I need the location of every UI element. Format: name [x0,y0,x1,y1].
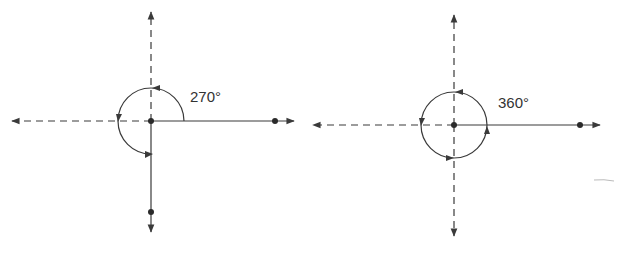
arc-arrow-icon [446,155,454,161]
vertex-point [451,122,457,128]
vertex-point [148,118,154,124]
arc-arrow-icon [484,126,490,134]
arc-arrow-icon [455,89,463,95]
arc-arrow-icon [152,85,160,91]
terminal-point [148,209,154,215]
diagram-360 [313,15,600,236]
diagram-270 [12,12,294,232]
initial-point [272,118,278,124]
angle-label-270: 270° [190,88,221,105]
scan-mark [594,180,614,181]
arc-arrow-icon [145,151,153,158]
angle-diagrams [0,0,619,253]
angle-label-360: 360° [498,94,529,111]
initial-point [577,122,583,128]
